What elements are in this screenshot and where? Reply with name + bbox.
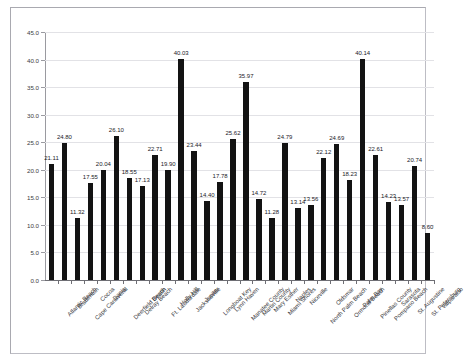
x-axis-tick <box>434 280 435 284</box>
y-axis-tick <box>41 252 45 253</box>
bar-value-label: 21.11 <box>44 155 59 161</box>
bar <box>230 139 235 280</box>
bar-value-label: 17.13 <box>135 177 150 183</box>
bar-value-label: 40.03 <box>174 50 189 56</box>
bar-value-label: 13.56 <box>303 196 318 202</box>
bar-value-label: 8.60 <box>422 224 434 230</box>
bar <box>165 170 170 280</box>
y-axis-tick <box>41 87 45 88</box>
bar <box>49 164 54 280</box>
bar <box>204 201 209 280</box>
bar <box>101 170 106 280</box>
bar-value-label: 35.97 <box>238 73 253 79</box>
bar-value-label: 22.12 <box>316 149 331 155</box>
bar-value-label: 11.32 <box>70 209 85 215</box>
bar-value-label: 14.72 <box>251 190 266 196</box>
y-axis-tick <box>41 142 45 143</box>
y-axis-tick-label: 20.0 <box>27 166 39 173</box>
y-axis-tick <box>41 225 45 226</box>
chart-plate: 0.05.010.015.020.025.030.035.040.045.0 2… <box>10 7 426 354</box>
bar <box>386 202 391 280</box>
bar <box>243 82 248 280</box>
bar-value-label: 11.28 <box>265 209 280 215</box>
bar-value-label: 22.71 <box>148 146 163 152</box>
bar <box>347 180 352 280</box>
y-axis-tick-label: 25.0 <box>27 139 39 146</box>
bar-value-label: 19.90 <box>161 161 176 167</box>
y-axis-tick <box>41 32 45 33</box>
bar-value-label: 17.78 <box>213 173 228 179</box>
gridline <box>45 32 434 33</box>
bar-value-label: 24.69 <box>329 135 344 141</box>
gridline <box>45 87 434 88</box>
bar-value-label: 40.14 <box>355 50 370 56</box>
bar-value-label: 23.44 <box>187 142 202 148</box>
bar <box>127 178 132 280</box>
bar <box>321 158 326 280</box>
plot-area: 0.05.010.015.020.025.030.035.040.045.0 2… <box>45 32 434 280</box>
bar-value-label: 20.04 <box>96 161 111 167</box>
bar <box>256 199 261 280</box>
y-axis-tick-label: 40.0 <box>27 56 39 63</box>
bar <box>399 205 404 280</box>
bar <box>308 205 313 280</box>
bar <box>62 143 67 280</box>
bar <box>217 182 222 280</box>
bar <box>178 59 183 280</box>
bar-value-label: 25.62 <box>226 130 241 136</box>
bar <box>75 218 80 280</box>
y-axis-tick-label: 30.0 <box>27 111 39 118</box>
bar-value-label: 18.55 <box>122 169 137 175</box>
y-axis-tick-label: 0.0 <box>30 277 39 284</box>
y-axis-tick-label: 45.0 <box>27 29 39 36</box>
bar <box>269 218 274 280</box>
bar-value-label: 17.55 <box>83 174 98 180</box>
bar-value-label: 24.79 <box>277 134 292 140</box>
bar <box>114 136 119 280</box>
bar-value-label: 18.23 <box>342 171 357 177</box>
y-axis-tick <box>41 280 45 281</box>
bar <box>295 208 300 280</box>
bar-value-label: 14.40 <box>200 192 215 198</box>
bar <box>282 143 287 280</box>
y-axis-tick-label: 10.0 <box>27 221 39 228</box>
gridline <box>45 142 434 143</box>
x-axis-category-label: Jupiter <box>203 286 220 303</box>
y-axis-tick-label: 15.0 <box>27 194 39 201</box>
bar-value-label: 26.10 <box>109 127 124 133</box>
bar <box>360 59 365 280</box>
bar <box>373 155 378 280</box>
bar-value-label: 22.61 <box>368 146 383 152</box>
y-axis-tick <box>41 197 45 198</box>
bar-value-label: 24.80 <box>57 134 72 140</box>
gridline <box>45 115 434 116</box>
y-axis-tick <box>41 60 45 61</box>
bar <box>88 183 93 280</box>
bar-value-label: 20.74 <box>407 157 422 163</box>
bar <box>334 144 339 280</box>
bar-value-label: 13.57 <box>394 196 409 202</box>
x-axis-category-label: Holly Hill <box>179 286 200 307</box>
x-axis-category-labels: Atlantic BeachBradentonCape CanaveralCoc… <box>45 284 434 362</box>
bar <box>425 233 430 280</box>
bar <box>191 151 196 280</box>
chart-title-clipped <box>0 0 435 6</box>
y-axis-tick-label: 5.0 <box>30 249 39 256</box>
gridline <box>45 60 434 61</box>
bar <box>140 186 145 280</box>
y-axis-tick <box>41 115 45 116</box>
bar <box>412 166 417 280</box>
y-axis-tick-label: 35.0 <box>27 84 39 91</box>
bar <box>152 155 157 280</box>
y-axis-tick <box>41 170 45 171</box>
